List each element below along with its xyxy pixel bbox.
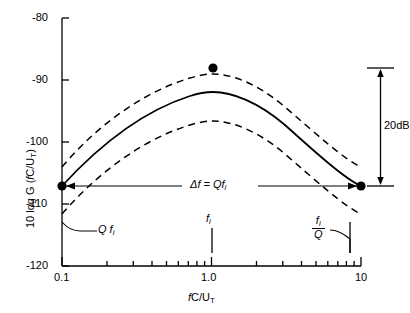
series-nominal-curve (62, 92, 361, 186)
leader-line-left (62, 222, 97, 231)
y-axis-title: 10 log G (fC/UT) (24, 149, 38, 228)
left-corner-label-main: Q f (98, 223, 113, 235)
y-axis-title-sub: T (29, 153, 38, 158)
y-axis-title-wrap: 10 log G (fC/UT) (8, 60, 28, 230)
y-axis-title-lead: 10 log G ( (24, 180, 36, 228)
right-fraction-numerator: fi (312, 215, 325, 229)
x-tick-label-1: 1.0 (201, 272, 216, 283)
center-label: fi (206, 213, 211, 226)
span-20db-label: 20dB (384, 120, 410, 131)
right-fraction-label: fiQ (312, 215, 325, 241)
leader-line-right (330, 230, 350, 253)
x-axis-title-mid: C/U (191, 291, 210, 303)
x-tick-label-0: 0.1 (54, 272, 69, 283)
x-axis-title: fC/UT (188, 292, 215, 305)
marker-right-3db (356, 181, 365, 190)
left-corner-label: Q fi (98, 224, 114, 237)
x-axis-ticks (62, 257, 361, 266)
y-axis-title-f: f (24, 177, 36, 180)
left-corner-label-sub: i (113, 228, 115, 237)
bandwidth-label-sub: i (225, 183, 227, 192)
bandwidth-label: Δf = Qfi (186, 179, 230, 192)
y-axis-title-mid: C/U (24, 158, 36, 177)
x-tick-label-2: 10 (355, 272, 367, 283)
y-tick-label-2: -100 (26, 136, 48, 147)
marker-left-3db (57, 181, 66, 190)
marker-peak (208, 63, 217, 72)
y-tick-label-1: -90 (32, 74, 48, 85)
bandwidth-label-main: Δf = Qf (190, 178, 225, 190)
y-axis-title-tail: ) (24, 149, 36, 153)
y-tick-label-0: -80 (32, 12, 48, 23)
center-label-sub: i (209, 217, 211, 226)
y-axis-ticks (62, 18, 69, 266)
data-point-markers (57, 63, 365, 190)
right-fraction: fiQ (312, 215, 325, 241)
x-axis-title-sub: T (210, 296, 215, 305)
right-fraction-denominator: Q (312, 229, 325, 241)
y-tick-label-4: -120 (26, 260, 48, 271)
right-fraction-numerator-sub: i (319, 219, 321, 228)
